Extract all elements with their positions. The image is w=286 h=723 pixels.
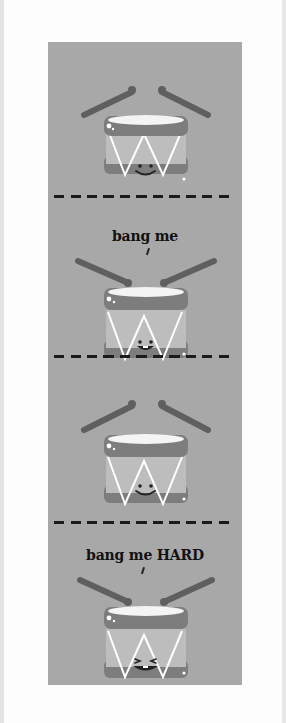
drum-section-4: bang me HARD <box>48 525 242 685</box>
drum-icon <box>48 525 242 685</box>
drum-comic-panel: bang me <box>48 42 242 685</box>
frame-edge-right <box>282 0 286 723</box>
frame-edge-left <box>0 0 4 723</box>
drum-icon <box>48 42 242 197</box>
drum-icon <box>48 198 242 358</box>
dashed-divider <box>54 521 234 524</box>
drum-section-1 <box>48 42 242 197</box>
drum-section-2: bang me <box>48 198 242 358</box>
drum-section-3 <box>48 359 242 524</box>
dashed-divider <box>54 355 234 358</box>
drum-icon <box>48 359 242 524</box>
